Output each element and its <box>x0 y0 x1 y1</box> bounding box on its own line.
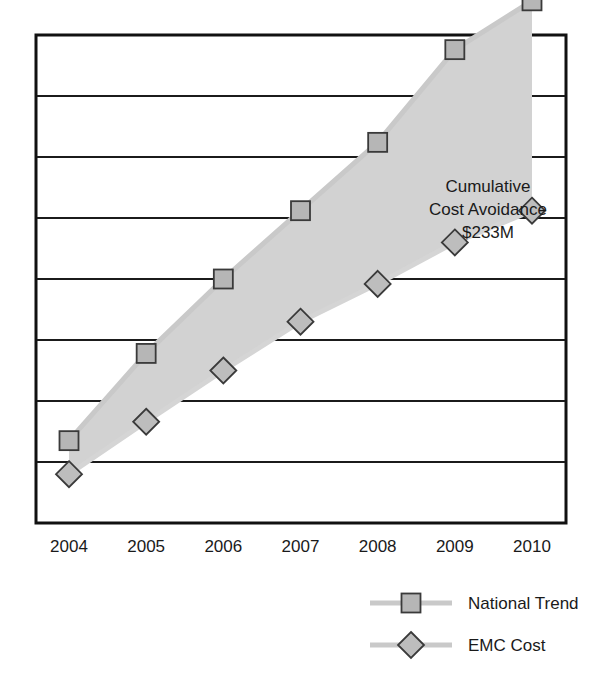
legend-marker-square <box>402 594 421 613</box>
x-axis-label-2009: 2009 <box>436 537 474 556</box>
x-axis-label-2007: 2007 <box>282 537 320 556</box>
cost-avoidance-chart: Cumulative Cost Avoidance $233M 20042005… <box>0 0 600 676</box>
data-point-national-trend-2006 <box>214 270 233 289</box>
annotation-line-3: $233M <box>462 223 514 242</box>
x-axis-label-2010: 2010 <box>513 537 551 556</box>
data-point-national-trend-2007 <box>291 201 310 220</box>
x-axis-label-2004: 2004 <box>50 537 88 556</box>
annotation-line-2: Cost Avoidance <box>429 200 547 219</box>
data-point-national-trend-2009 <box>445 40 464 59</box>
x-axis-label-2006: 2006 <box>204 537 242 556</box>
legend-item-national-trend[interactable]: National Trend <box>370 594 579 614</box>
data-point-national-trend-2004 <box>60 431 79 450</box>
x-axis-label-2005: 2005 <box>127 537 165 556</box>
chart-container: Cumulative Cost Avoidance $233M 20042005… <box>0 0 600 676</box>
legend-label: EMC Cost <box>468 636 546 655</box>
data-point-national-trend-2008 <box>368 133 387 152</box>
data-point-national-trend-2010 <box>523 0 542 10</box>
data-point-national-trend-2005 <box>137 344 156 363</box>
legend-label: National Trend <box>468 594 579 613</box>
x-axis-label-2008: 2008 <box>359 537 397 556</box>
annotation-line-1: Cumulative <box>445 177 530 196</box>
